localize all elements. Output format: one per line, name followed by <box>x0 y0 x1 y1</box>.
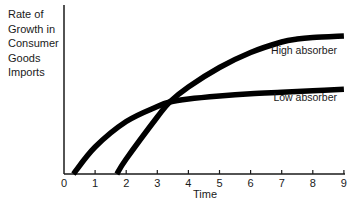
low-absorber-label: Low absorber <box>273 91 337 103</box>
x-tick-label: 6 <box>248 177 254 189</box>
x-tick-label: 3 <box>154 177 160 189</box>
chart-canvas: 0123456789 Time High absorber Low absorb… <box>0 0 355 206</box>
x-tick-label: 9 <box>341 177 347 189</box>
x-tick-label: 8 <box>310 177 316 189</box>
x-tick-label: 0 <box>61 177 67 189</box>
x-tick-label: 1 <box>92 177 98 189</box>
x-tick-label: 4 <box>185 177 191 189</box>
x-tick-label: 2 <box>123 177 129 189</box>
x-tick-label: 7 <box>279 177 285 189</box>
x-tick-label: 5 <box>216 177 222 189</box>
high-absorber-label: High absorber <box>271 44 337 56</box>
high-absorber-line <box>117 36 344 174</box>
x-axis-label: Time <box>193 188 217 200</box>
